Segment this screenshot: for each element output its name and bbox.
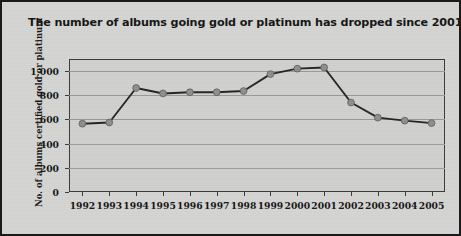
y-tick-mark xyxy=(65,192,69,193)
data-point-marker: 1993: 575 xyxy=(106,119,113,126)
x-tick-label: 2003 xyxy=(365,200,391,211)
x-tick-mark xyxy=(109,192,110,196)
x-tick-mark xyxy=(190,192,191,196)
data-point-marker: 1999: 975 xyxy=(267,71,274,78)
x-tick-label: 2004 xyxy=(392,200,418,211)
y-tick-label: 800 xyxy=(40,90,59,101)
data-point-marker: 1998: 835 xyxy=(240,88,247,95)
plot-area: 1992: 5651993: 5751994: 8601995: 8151996… xyxy=(69,59,445,192)
data-point-marker: 2000: 1020 xyxy=(294,65,301,72)
x-tick-label: 1998 xyxy=(231,200,257,211)
x-tick-mark xyxy=(297,192,298,196)
x-tick-mark xyxy=(432,192,433,196)
y-tick-label: 400 xyxy=(40,138,59,149)
x-tick-mark xyxy=(405,192,406,196)
x-tick-mark xyxy=(351,192,352,196)
data-point-marker: 1994: 860 xyxy=(133,85,140,92)
y-tick-label: 600 xyxy=(40,114,59,125)
data-point-marker: 2005: 570 xyxy=(428,120,435,127)
chart-title: The number of albums going gold or plati… xyxy=(28,16,438,29)
data-series-line: 1992: 5651993: 5751994: 8601995: 8151996… xyxy=(69,59,445,192)
x-tick-mark xyxy=(136,192,137,196)
data-point-marker: 2003: 615 xyxy=(374,114,381,121)
data-point-marker: 2001: 1030 xyxy=(321,64,328,71)
x-tick-label: 2001 xyxy=(311,200,337,211)
y-tick-label: 200 xyxy=(40,162,59,173)
x-tick-label: 1995 xyxy=(150,200,176,211)
x-tick-label: 1993 xyxy=(96,200,122,211)
x-tick-label: 2002 xyxy=(338,200,364,211)
x-tick-mark xyxy=(378,192,379,196)
y-tick-label: 0 xyxy=(53,187,59,198)
x-tick-label: 1992 xyxy=(70,200,96,211)
x-tick-label: 2005 xyxy=(419,200,445,211)
x-tick-label: 1994 xyxy=(123,200,149,211)
data-point-marker: 2002: 740 xyxy=(348,99,355,106)
x-tick-label: 1999 xyxy=(258,200,284,211)
x-tick-mark xyxy=(163,192,164,196)
x-tick-mark xyxy=(82,192,83,196)
x-tick-mark xyxy=(217,192,218,196)
data-point-marker: 2004: 590 xyxy=(401,117,408,124)
y-tick-label: 1,000 xyxy=(30,66,59,77)
data-point-marker: 1996: 825 xyxy=(186,89,193,96)
x-tick-label: 1996 xyxy=(177,200,203,211)
data-point-marker: 1997: 825 xyxy=(213,89,220,96)
data-point-marker: 1992: 565 xyxy=(79,120,86,127)
data-point-marker: 1995: 815 xyxy=(160,90,167,97)
x-tick-label: 2000 xyxy=(284,200,310,211)
x-tick-mark xyxy=(270,192,271,196)
x-tick-label: 1997 xyxy=(204,200,230,211)
chart-figure: The number of albums going gold or plati… xyxy=(0,0,461,236)
x-tick-mark xyxy=(244,192,245,196)
x-tick-mark xyxy=(324,192,325,196)
